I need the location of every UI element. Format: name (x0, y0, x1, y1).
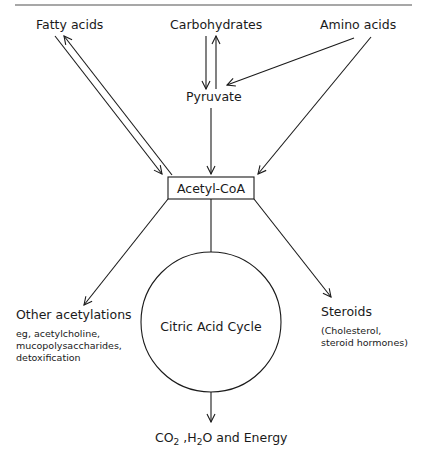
other-acetylations-label: Other acetylations (16, 307, 132, 322)
other-acetylations-detail-2: mucopolysaccharides, (16, 340, 122, 351)
steroids-label: Steroids (321, 304, 372, 319)
amino-acids-to-pyruvate-arrow (227, 38, 354, 85)
amino-acids-to-acetylcoa-arrow (258, 37, 371, 174)
steroids-detail-1: (Cholesterol, (321, 325, 381, 336)
steroids-detail-2: steroid hormones) (321, 337, 408, 348)
other-acetylations-detail-1: eg, acetylcholine, (16, 328, 100, 339)
acetylcoa-label: Acetyl-CoA (177, 181, 246, 196)
metabolism-diagram: Fatty acids Carbohydrates Amino acids Py… (0, 0, 427, 461)
citric-acid-cycle-label: Citric Acid Cycle (160, 319, 262, 334)
fatty-acids-to-acetylcoa-arrow (55, 36, 162, 174)
pyruvate-label: Pyruvate (186, 89, 242, 104)
acetylcoa-to-fatty-acids-arrow (64, 36, 172, 175)
acetylcoa-to-steroids-arrow (254, 199, 331, 297)
final-products-label: CO2 ,H2O and Energy (155, 430, 288, 447)
acetylcoa-to-other-acetylations-arrow (84, 199, 168, 305)
fatty-acids-label: Fatty acids (36, 17, 103, 32)
carbohydrates-label: Carbohydrates (170, 17, 262, 32)
other-acetylations-detail-3: detoxification (16, 352, 81, 363)
amino-acids-label: Amino acids (320, 17, 396, 32)
